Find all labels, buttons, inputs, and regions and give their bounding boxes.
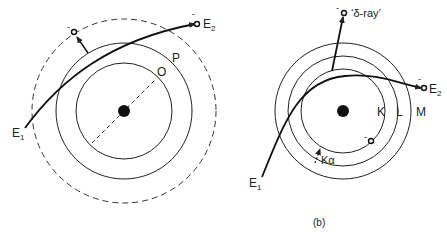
label-e1: E1 <box>249 176 262 192</box>
ejected-electron <box>72 30 77 35</box>
figure-caption-b: (b) <box>313 217 325 228</box>
incident-electron-path <box>25 24 195 128</box>
charge-minus-k: - <box>364 132 367 142</box>
label-shell-p: P <box>172 51 180 65</box>
charge-minus-delta: - <box>336 3 339 13</box>
label-e2: E2 <box>429 82 442 98</box>
label-e1: E1 <box>12 126 25 142</box>
right-atom-diagram: - - ‘δ-ray’ - Kα K L M E1 E2 (b) <box>249 3 442 228</box>
nucleus <box>118 105 130 117</box>
label-shell-k: K <box>377 105 385 119</box>
nucleus <box>337 105 349 117</box>
label-shell-m: M <box>416 105 426 119</box>
charge-minus-e2: - <box>192 9 195 19</box>
atomic-scattering-figure: - - E1 E2 O P - - ‘δ-ray’ - Kα K L M E1 … <box>0 0 447 241</box>
label-delta-ray: ‘δ-ray’ <box>351 7 381 19</box>
incident-electron-path <box>262 75 421 177</box>
delta-ray-electron <box>342 11 347 16</box>
left-atom-diagram: - - E1 E2 O P <box>12 9 216 203</box>
charge-minus-ejected: - <box>67 22 70 32</box>
outgoing-electron-e2 <box>195 22 200 27</box>
outgoing-electron-e2 <box>422 86 427 91</box>
label-k-alpha: Kα <box>321 154 335 166</box>
label-shell-l: L <box>396 105 403 119</box>
label-shell-o: O <box>157 65 166 79</box>
charge-minus-e2: - <box>418 74 421 84</box>
ejected-electron-arrow <box>77 37 88 53</box>
k-shell-vacancy-electron <box>369 139 374 144</box>
label-e2: E2 <box>203 17 216 33</box>
